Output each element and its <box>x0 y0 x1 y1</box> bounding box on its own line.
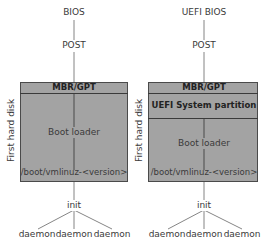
right-kernel-label: /boot/vmlinuz-<version> <box>151 167 258 178</box>
left-init-label: init <box>66 200 82 211</box>
left-daemon-2: daemon <box>56 229 93 240</box>
right-init-label: init <box>196 200 212 211</box>
right-line-init-daemon3 <box>204 210 242 229</box>
right-daemon-3: daemon <box>224 229 261 240</box>
left-boot-loader-label: Boot loader <box>47 127 101 138</box>
left-disk-label: First hard disk <box>6 99 17 162</box>
right-line-init-daemon1 <box>168 210 204 229</box>
right-daemon-1: daemon <box>149 229 186 240</box>
left-mbr-label: MBR/GPT <box>52 82 96 93</box>
right-firmware-label: UEFI BIOS <box>182 7 227 18</box>
left-line-init-daemon3 <box>74 210 112 229</box>
left-daemon-1: daemon <box>19 229 56 240</box>
left-post-label: POST <box>62 40 86 51</box>
right-daemon-2: daemon <box>186 229 223 240</box>
left-daemon-3: daemon <box>94 229 131 240</box>
left-firmware-label: BIOS <box>63 7 85 18</box>
left-kernel-label: /boot/vmlinuz-<version> <box>21 167 128 178</box>
left-line-init-daemon1 <box>38 210 74 229</box>
right-boot-loader-label: Boot loader <box>177 138 231 149</box>
right-disk-label: First hard disk <box>134 99 145 162</box>
right-mbr-label: MBR/GPT <box>182 82 226 93</box>
right-post-label: POST <box>192 40 216 51</box>
right-uefi-partition-label: UEFI System partition <box>152 100 257 111</box>
